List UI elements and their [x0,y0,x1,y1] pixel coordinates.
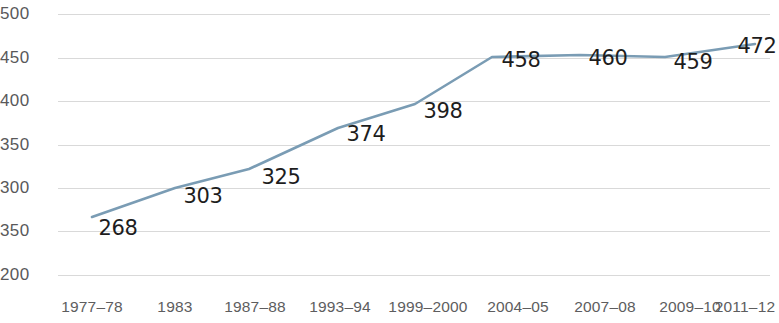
data-point-label: 459 [674,50,713,74]
x-axis-tick-label: 2004–05 [487,298,549,316]
data-point-label: 398 [424,99,463,123]
x-axis-tick-label: 1977–78 [61,298,123,316]
data-point-label: 460 [589,46,628,70]
x-axis: 1977–7819831987–881993–941999–20002004–0… [0,298,779,323]
line-chart: 500450400350300350200 268303325374398458… [0,0,779,323]
data-point-label: 374 [347,122,386,146]
x-axis-tick-label: 2011–12 [715,298,776,316]
data-point-label: 325 [262,165,301,189]
x-axis-tick-label: 1987–88 [224,298,286,316]
x-axis-tick-label: 1999–2000 [388,298,467,316]
x-axis-tick-label: 1993–94 [309,298,371,316]
x-axis-tick-label: 2007–08 [574,298,636,316]
series-line-group [0,0,779,323]
x-axis-tick-label: 2009–10 [659,298,721,316]
data-point-label: 472 [738,34,777,58]
data-point-label: 458 [502,48,541,72]
data-point-label: 268 [99,216,138,240]
data-point-label: 303 [184,184,223,208]
x-axis-tick-label: 1983 [157,298,192,316]
